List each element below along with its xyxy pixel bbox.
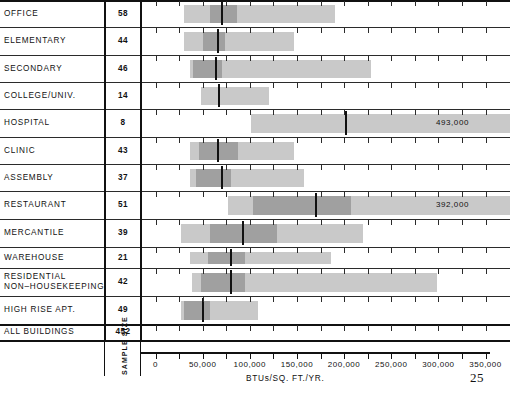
axis-tick-mark bbox=[486, 248, 487, 253]
axis-tick-mark bbox=[203, 165, 204, 170]
axis-tick-mark bbox=[321, 269, 322, 274]
axis-tick-mark bbox=[438, 28, 439, 33]
axis-tick-mark bbox=[415, 269, 416, 274]
sample-size-caption: SAMPLE SIZE bbox=[121, 343, 128, 375]
axis-tick-mark bbox=[486, 138, 487, 143]
row-separator bbox=[0, 340, 510, 342]
axis-tick-mark bbox=[156, 297, 157, 302]
axis-tick-mark bbox=[391, 248, 392, 253]
axis-tick-mark bbox=[321, 1, 322, 6]
axis-tick-mark bbox=[179, 297, 180, 302]
axis-tick-mark bbox=[486, 83, 487, 88]
axis-tick-mark bbox=[415, 326, 416, 331]
axis-tick-mark bbox=[415, 138, 416, 143]
axis-tick-mark bbox=[203, 248, 204, 253]
axis-tick-mark bbox=[273, 165, 274, 170]
axis-tick-mark bbox=[297, 28, 298, 33]
median-line bbox=[315, 193, 317, 217]
range-band bbox=[184, 32, 294, 51]
axis-tick-mark bbox=[250, 56, 251, 61]
axis-tick-mark bbox=[486, 28, 487, 33]
axis-tick-mark bbox=[156, 83, 157, 88]
axis-tick-mark bbox=[226, 28, 227, 33]
axis-tick-mark bbox=[250, 138, 251, 143]
median-line bbox=[242, 221, 244, 245]
axis-tick-mark bbox=[415, 110, 416, 115]
axis-tick-mark bbox=[368, 354, 369, 359]
axis-tick-mark bbox=[203, 28, 204, 33]
axis-tick-mark bbox=[250, 1, 251, 6]
axis-tick-mark bbox=[179, 28, 180, 33]
axis-tick-mark bbox=[368, 326, 369, 331]
axis-tick-mark bbox=[226, 354, 227, 359]
axis-tick-mark bbox=[415, 220, 416, 225]
axis-tick-mark bbox=[156, 28, 157, 33]
axis-tick-mark bbox=[179, 165, 180, 170]
axis-tick-mark bbox=[344, 110, 345, 115]
axis-tick-mark bbox=[321, 192, 322, 197]
axis-tick-mark bbox=[415, 83, 416, 88]
axis-tick-mark bbox=[391, 354, 392, 359]
axis-tick-mark bbox=[438, 326, 439, 331]
axis-tick-mark bbox=[344, 297, 345, 302]
axis-tick-mark bbox=[344, 326, 345, 331]
axis-tick-label: 100,000 bbox=[234, 360, 266, 369]
axis-tick-mark bbox=[156, 1, 157, 6]
axis-tick-mark bbox=[321, 110, 322, 115]
interquartile-band bbox=[184, 301, 210, 320]
axis-tick-mark bbox=[486, 269, 487, 274]
axis-tick-mark bbox=[273, 248, 274, 253]
axis-tick-mark bbox=[462, 354, 463, 359]
axis-tick-mark bbox=[203, 110, 204, 115]
median-line bbox=[230, 249, 232, 266]
axis-tick-mark bbox=[179, 248, 180, 253]
axis-tick-mark bbox=[250, 83, 251, 88]
axis-tick-mark bbox=[297, 354, 298, 359]
axis-tick-mark bbox=[179, 220, 180, 225]
axis-tick-mark bbox=[297, 83, 298, 88]
axis-tick-mark bbox=[438, 110, 439, 115]
axis-tick-mark bbox=[273, 269, 274, 274]
axis-tick-mark bbox=[344, 56, 345, 61]
page-number: 25 bbox=[470, 370, 484, 386]
interquartile-band bbox=[203, 32, 226, 51]
axis-tick-mark bbox=[344, 192, 345, 197]
axis-tick-mark bbox=[415, 165, 416, 170]
axis-tick-mark bbox=[368, 56, 369, 61]
axis-tick-mark bbox=[438, 56, 439, 61]
axis-tick-mark bbox=[156, 269, 157, 274]
axis-tick-mark bbox=[486, 110, 487, 115]
axis-tick-mark bbox=[344, 269, 345, 274]
axis-tick-mark bbox=[226, 165, 227, 170]
axis-tick-mark bbox=[321, 248, 322, 253]
axis-tick-mark bbox=[203, 326, 204, 331]
median-line bbox=[221, 2, 223, 25]
axis-tick-mark bbox=[203, 269, 204, 274]
plot-left-divider-bottom bbox=[140, 340, 141, 376]
axis-tick-mark bbox=[250, 248, 251, 253]
axis-tick-mark bbox=[486, 326, 487, 331]
axis-tick-mark bbox=[438, 220, 439, 225]
axis-tick-mark bbox=[391, 28, 392, 33]
axis-tick-mark bbox=[368, 192, 369, 197]
axis-tick-mark bbox=[203, 83, 204, 88]
axis-tick-mark bbox=[462, 192, 463, 197]
axis-tick-mark bbox=[462, 28, 463, 33]
axis-tick-mark bbox=[415, 1, 416, 6]
axis-tick-mark bbox=[156, 326, 157, 331]
axis-tick-mark bbox=[344, 83, 345, 88]
axis-tick-mark bbox=[226, 220, 227, 225]
axis-tick-mark bbox=[438, 269, 439, 274]
axis-tick-mark bbox=[438, 1, 439, 6]
median-line bbox=[217, 139, 219, 162]
axis-tick-mark bbox=[273, 138, 274, 143]
axis-tick-mark bbox=[179, 269, 180, 274]
axis-tick-label: 0 bbox=[153, 360, 158, 369]
axis-tick-mark bbox=[203, 354, 204, 359]
axis-tick-mark bbox=[321, 83, 322, 88]
axis-tick-mark bbox=[226, 83, 227, 88]
axis-tick-mark bbox=[297, 326, 298, 331]
axis-tick-mark bbox=[297, 56, 298, 61]
axis-tick-mark bbox=[391, 220, 392, 225]
axis-tick-mark bbox=[250, 269, 251, 274]
